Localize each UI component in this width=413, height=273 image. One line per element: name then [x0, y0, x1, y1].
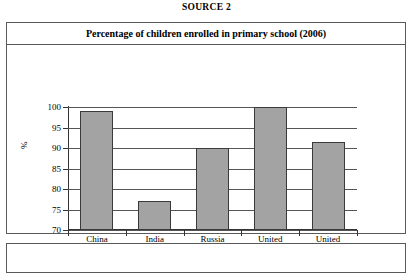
y-tick-label: 95 [52, 123, 61, 133]
bar [254, 107, 287, 230]
next-source-panel [6, 243, 406, 273]
y-tick-mark [63, 148, 68, 149]
source-label: SOURCE 2 [0, 2, 413, 12]
y-tick-label: 75 [52, 205, 61, 215]
x-tick-mark [357, 230, 358, 236]
y-tick-mark [63, 189, 68, 190]
source-panel: Percentage of children enrolled in prima… [6, 22, 406, 234]
chart-title: Percentage of children enrolled in prima… [7, 23, 405, 45]
bar [312, 142, 345, 230]
y-tick-label: 100 [48, 102, 62, 112]
y-tick-label: 80 [52, 184, 61, 194]
gridline [68, 230, 357, 231]
y-tick-mark [63, 128, 68, 129]
bar [80, 111, 113, 230]
bar [138, 201, 171, 230]
y-tick-label: 70 [52, 225, 61, 235]
y-tick-label: 85 [52, 164, 61, 174]
y-tick-mark [63, 107, 68, 108]
y-axis-label: % [19, 142, 29, 150]
plot-area: 100959085807570 ChinaIndiaRussiaUnitedKi… [68, 107, 357, 230]
gridline [68, 107, 357, 108]
y-tick-mark [63, 169, 68, 170]
y-tick-mark [63, 210, 68, 211]
y-tick-label: 90 [52, 143, 61, 153]
chart-plot-wrapper: % 100959085807570 ChinaIndiaRussiaUnited… [7, 45, 405, 234]
bar [196, 148, 229, 230]
